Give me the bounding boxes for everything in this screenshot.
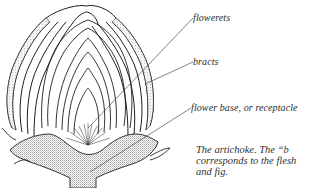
label-florets: flowerets <box>193 12 230 23</box>
choke-hairs <box>66 123 110 145</box>
caption-line-3: and fig. <box>196 166 315 177</box>
label-receptacle: flower base, or receptacle <box>191 102 298 113</box>
caption-line-1: The artichoke. The “b <box>196 144 315 155</box>
label-bracts: bracts <box>193 56 219 67</box>
caption-line-2: corresponds to the flesh <box>196 155 315 166</box>
artichoke-figure: flowerets bracts flower base, or recepta… <box>0 0 315 188</box>
figure-caption: The artichoke. The “b corresponds to the… <box>196 144 315 177</box>
